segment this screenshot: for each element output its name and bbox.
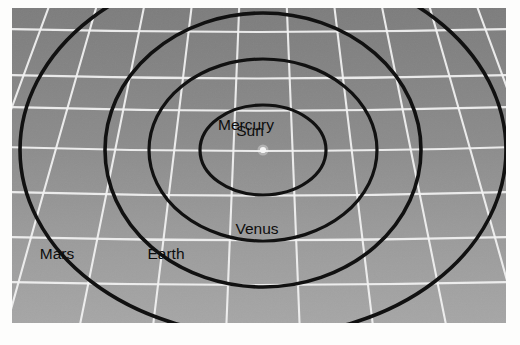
- orbit-diagram-plate: SunMercuryVenusEarthMars: [12, 8, 506, 323]
- sun-marker: [260, 147, 266, 153]
- orbit-diagram-svg: SunMercuryVenusEarthMars: [12, 8, 506, 323]
- sun-marker-group: [258, 145, 269, 156]
- figure-canvas: SunMercuryVenusEarthMars: [0, 0, 520, 345]
- label-mercury: Mercury: [218, 116, 274, 133]
- label-earth: Earth: [147, 245, 184, 262]
- label-mars: Mars: [40, 245, 75, 262]
- label-venus: Venus: [235, 220, 278, 237]
